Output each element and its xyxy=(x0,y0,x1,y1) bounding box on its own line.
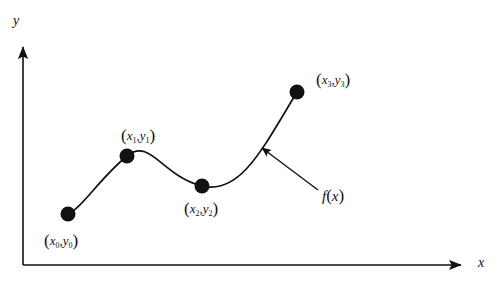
x-subscript: 2 xyxy=(195,209,199,218)
paren-close: ) xyxy=(212,199,218,218)
data-point-marker xyxy=(195,179,210,194)
paren-open: ( xyxy=(44,231,50,250)
data-point-marker xyxy=(61,207,76,222)
function-annotation-arrow xyxy=(262,148,318,190)
paren-close: ) xyxy=(72,231,78,250)
y-axis-label: y xyxy=(13,14,19,28)
paren-close: ) xyxy=(339,186,345,205)
paren-close: ) xyxy=(344,70,350,89)
paren-open: ( xyxy=(184,199,190,218)
function-curve xyxy=(68,92,297,214)
paren-open: ( xyxy=(121,126,127,145)
x-subscript: 3 xyxy=(327,80,331,89)
point-label-1: (x1,y1) xyxy=(121,126,155,143)
data-point-marker xyxy=(120,149,135,164)
function-label: f(x) xyxy=(322,187,344,204)
point-label-3: (x3,y3) xyxy=(316,70,350,87)
point-label-2: (x2,y2) xyxy=(184,199,218,216)
x-subscript: 1 xyxy=(132,136,136,145)
function-variable: x xyxy=(332,188,339,204)
x-axis-label: x xyxy=(478,256,484,270)
paren-close: ) xyxy=(149,126,155,145)
paren-open: ( xyxy=(316,70,322,89)
function-interpolation-diagram: y x (x0,y0) (x1,y1) (x2,y2) (x3,y3) f(x) xyxy=(0,0,500,282)
data-point-marker xyxy=(290,85,305,100)
x-subscript: 0 xyxy=(55,241,59,250)
point-label-0: (x0,y0) xyxy=(44,231,78,248)
